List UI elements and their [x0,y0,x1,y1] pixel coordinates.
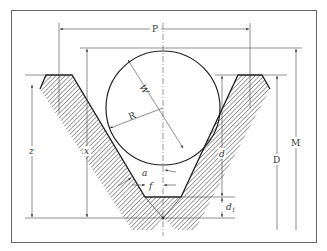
wire-diameter-line [128,60,183,148]
wire-radius-label: R [127,110,137,122]
thread-wire-measurement-diagram: P z x W R a f d d1 D M [0,0,327,251]
D-label: D [273,155,280,165]
left-tooth-hatch [40,75,163,230]
d-label: d [219,149,225,159]
x-label: x [84,146,89,156]
wire-diameter-label: W [137,83,151,97]
d1-label: d1 [226,202,236,213]
right-tooth-hatch [163,75,270,230]
z-label: z [28,146,34,156]
half-angle-label: a [142,168,147,178]
pitch-label: P [152,24,158,34]
M-label: M [291,138,300,148]
half-angle-arrow [165,170,176,172]
flat-label: f [148,181,154,191]
